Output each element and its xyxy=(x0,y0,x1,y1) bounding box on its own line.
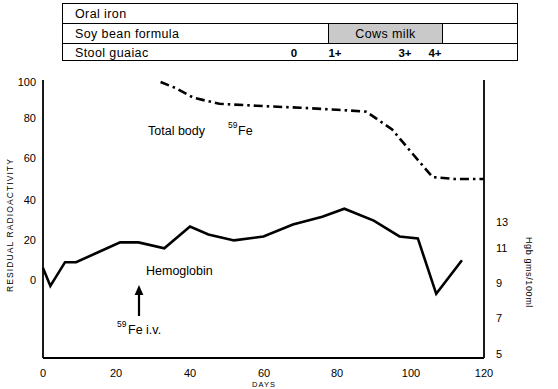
y2-tick-label-7: 7 xyxy=(496,312,502,324)
x-axis-ticks: 0 20 40 60 80 100 120 xyxy=(40,367,493,379)
x-tick-label-20: 20 xyxy=(110,367,122,379)
y2-tick-label-9: 9 xyxy=(496,277,502,289)
total-body-label-superscript: 59 xyxy=(228,120,238,130)
x-tick-label-120: 120 xyxy=(475,367,493,379)
y-axis-right-ticks: 13 11 9 7 5 xyxy=(496,216,508,360)
y-axis-right-title: Hgb gms/100ml xyxy=(524,237,534,308)
y-tick-label-100: 100 xyxy=(18,76,36,88)
series-line-total-body-fe59 xyxy=(161,82,484,179)
y-tick-label-40: 40 xyxy=(24,194,36,206)
total-body-label-text: Total body xyxy=(148,124,206,138)
y-axis-left-ticks: 100 80 60 40 20 0 xyxy=(18,76,36,286)
series-line-hemoglobin xyxy=(43,209,462,294)
x-axis-title: DAYS xyxy=(252,380,276,389)
total-body-label-element: Fe xyxy=(238,124,253,138)
y-tick-label-20: 20 xyxy=(24,234,36,246)
y2-tick-label-11: 11 xyxy=(496,242,507,254)
y-tick-label-0: 0 xyxy=(30,274,36,286)
chart-axes xyxy=(43,80,484,358)
fe59-iv-superscript: 59 xyxy=(117,319,127,329)
y2-tick-label-5: 5 xyxy=(496,348,502,360)
y-tick-label-60: 60 xyxy=(24,152,36,164)
y-tick-label-80: 80 xyxy=(24,112,36,124)
y2-tick-label-13: 13 xyxy=(496,216,508,228)
y-axis-left-title: RESIDUAL RADIOACTIVITY xyxy=(5,158,15,292)
chart-canvas: 100 80 60 40 20 0 RESIDUAL RADIOACTIVITY… xyxy=(0,0,558,389)
annotation-fe59-iv: 59 Fe i.v. xyxy=(117,285,161,337)
figure-root: Oral iron Soy bean formula Cows milk Sto… xyxy=(0,0,558,389)
x-tick-label-60: 60 xyxy=(258,367,270,379)
series-label-total-body-fe59: Total body 59 Fe xyxy=(148,120,253,138)
x-tick-label-100: 100 xyxy=(402,367,420,379)
x-tick-label-0: 0 xyxy=(40,367,46,379)
fe59-iv-arrow-head-icon xyxy=(135,285,144,295)
fe59-iv-label: Fe i.v. xyxy=(128,323,161,337)
x-tick-label-80: 80 xyxy=(331,367,343,379)
series-label-hemoglobin: Hemoglobin xyxy=(146,264,213,278)
x-tick-label-40: 40 xyxy=(184,367,196,379)
